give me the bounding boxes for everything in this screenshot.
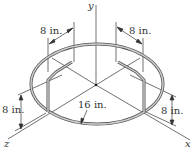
left-height-dimension: 8 in. <box>2 105 24 115</box>
left-arm-dimension: 8 in. <box>40 26 62 36</box>
z-axis-label: z <box>4 139 9 149</box>
diagram-canvas: y z x 8 in. 8 in. 8 in. 8 in. 16 in. <box>0 0 194 152</box>
y-axis-label: y <box>88 1 94 11</box>
x-axis-label: x <box>185 139 191 149</box>
left-rod-leg <box>48 62 72 112</box>
right-height-dimension: 8 in. <box>161 106 183 116</box>
origin-point <box>95 84 98 87</box>
bent-rod-figure <box>0 0 194 152</box>
right-height-extension <box>130 75 176 97</box>
ring-radius-dimension: 16 in. <box>78 100 107 110</box>
left-height-extension <box>18 75 62 95</box>
right-arm-dimension: 8 in. <box>129 26 151 36</box>
